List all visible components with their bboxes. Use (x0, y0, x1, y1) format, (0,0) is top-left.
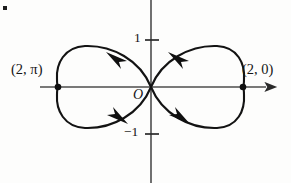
point-label-left: (2, π) (11, 62, 42, 77)
arrowhead-left-loop-upper (106, 52, 127, 69)
point-marker-right (240, 84, 247, 91)
lemniscate-figure: (2, π) (2, 0) 1 −1 O (0, 0, 291, 183)
y-tick-label-positive-one: 1 (134, 31, 141, 45)
direction-arrowheads-group (106, 52, 190, 124)
origin-label: O (133, 88, 143, 102)
y-tick-label-negative-one: −1 (124, 125, 138, 139)
point-label-right: (2, 0) (242, 62, 273, 77)
plot-canvas (0, 0, 291, 183)
point-marker-left (55, 84, 62, 91)
arrowhead-right-loop-lower (169, 107, 190, 124)
